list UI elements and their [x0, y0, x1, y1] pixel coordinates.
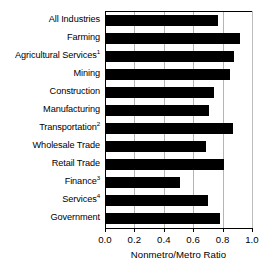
category-label: Agricultural Services1 — [15, 49, 100, 61]
tick-mark — [164, 228, 165, 232]
category-label: Construction — [50, 85, 100, 97]
bar — [105, 15, 218, 26]
category-label: Wholesale Trade — [33, 139, 100, 151]
category-label: Farming — [67, 31, 100, 43]
tick-label: 1.0 — [237, 233, 267, 246]
bar — [105, 195, 208, 206]
plot-area — [105, 11, 252, 229]
value-axis-zero-line — [105, 11, 106, 228]
bar-row — [105, 192, 252, 210]
category-label: Retail Trade — [52, 157, 100, 169]
category-label: Transportation2 — [39, 121, 100, 133]
footnote-marker: 4 — [97, 192, 100, 199]
category-label: Manufacturing — [43, 103, 100, 115]
footnote-marker: 3 — [97, 174, 100, 181]
bar-row — [105, 30, 252, 48]
tick-label: 0.8 — [208, 233, 238, 246]
tick-label: 0.0 — [90, 233, 120, 246]
category-label: Mining — [74, 67, 100, 79]
bar-row — [105, 120, 252, 138]
category-label: Finance3 — [65, 175, 100, 187]
x-axis-title: Nonmetro/Metro Ratio — [105, 248, 252, 261]
bar — [105, 141, 206, 152]
bar — [105, 105, 209, 116]
footnote-marker: 1 — [97, 48, 100, 55]
bar-row — [105, 102, 252, 120]
bar — [105, 33, 240, 44]
tick-mark — [252, 228, 253, 232]
footnote-marker: 2 — [97, 120, 100, 127]
plot-area-right-border — [252, 11, 253, 228]
x-axis-tick-labels: 0.00.20.40.60.81.0 — [0, 233, 273, 247]
tick-label: 0.2 — [119, 233, 149, 246]
tick-mark — [134, 228, 135, 232]
bar-row — [105, 12, 252, 30]
bar-row — [105, 66, 252, 84]
bar — [105, 51, 234, 62]
tick-mark — [105, 228, 106, 232]
nonmetro-metro-ratio-bar-chart: All IndustriesFarmingAgricultural Servic… — [0, 0, 273, 268]
bar — [105, 159, 224, 170]
tick-mark — [193, 228, 194, 232]
bar-row — [105, 210, 252, 228]
bar — [105, 69, 230, 80]
tick-label: 0.6 — [178, 233, 208, 246]
bar-row — [105, 84, 252, 102]
bar — [105, 123, 233, 134]
bar-row — [105, 48, 252, 66]
bar-row — [105, 138, 252, 156]
category-label: Government — [50, 211, 100, 223]
bar-row — [105, 156, 252, 174]
bar — [105, 177, 180, 188]
tick-label: 0.4 — [149, 233, 179, 246]
category-label: All Industries — [49, 13, 100, 25]
bar-row — [105, 174, 252, 192]
tick-mark — [223, 228, 224, 232]
bar — [105, 87, 214, 98]
bar — [105, 213, 220, 224]
category-label: Services4 — [62, 193, 100, 205]
category-axis-labels: All IndustriesFarmingAgricultural Servic… — [0, 11, 103, 227]
